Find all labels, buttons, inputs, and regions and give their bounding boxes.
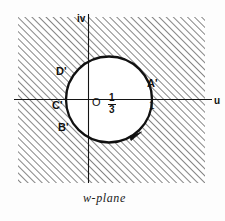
- fraction-denominator: 3: [108, 105, 116, 115]
- figure-caption: w-plane: [83, 191, 126, 206]
- fraction-numerator: 1: [108, 93, 116, 103]
- w-plane-figure: iv u O 1 3 1 D' C' B' A' w-plane: [0, 0, 225, 221]
- point-label-d-prime: D': [56, 66, 67, 77]
- point-label-c-prime: C': [52, 100, 63, 111]
- one-third-fraction: 1 3: [108, 93, 116, 115]
- point-label-a-prime: A': [147, 78, 158, 89]
- point-label-b-prime: B': [58, 122, 69, 133]
- u-axis-label: u: [214, 96, 220, 106]
- iv-axis-label: iv: [77, 14, 85, 24]
- origin-label: O: [92, 97, 101, 108]
- u-tick-label-1: 1: [149, 101, 155, 111]
